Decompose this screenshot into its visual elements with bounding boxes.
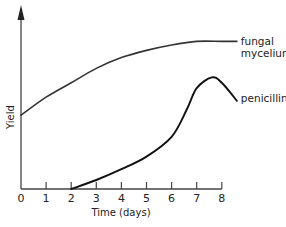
x-axis-title: Time (days) bbox=[90, 207, 150, 218]
x-tick-label: 3 bbox=[93, 192, 100, 205]
y-axis-title: Yield bbox=[5, 105, 16, 130]
x-tick-label: 4 bbox=[118, 192, 125, 205]
x-tick-label: 6 bbox=[168, 192, 175, 205]
x-tick-label: 8 bbox=[218, 192, 225, 205]
series-label-fungal-mycelium: mycelium bbox=[241, 47, 286, 59]
series-line-penicillin bbox=[71, 77, 237, 189]
x-tick-label: 2 bbox=[68, 192, 75, 205]
x-tick-label: 5 bbox=[143, 192, 150, 205]
x-tick-label: 0 bbox=[18, 192, 25, 205]
series-lines bbox=[21, 41, 237, 189]
x-tick-label: 1 bbox=[43, 192, 50, 205]
series-line-fungal-mycelium bbox=[21, 41, 237, 115]
series-labels: fungalmyceliumpenicillin bbox=[241, 35, 286, 103]
x-tick-label: 7 bbox=[193, 192, 200, 205]
yield-chart: 012345678 Time (days) Yield fungalmyceli… bbox=[0, 0, 286, 227]
series-label-fungal-mycelium: fungal bbox=[241, 35, 274, 47]
x-axis-ticks: 012345678 bbox=[18, 182, 226, 205]
y-axis-arrow-icon bbox=[18, 5, 25, 20]
series-label-penicillin: penicillin bbox=[241, 92, 286, 104]
